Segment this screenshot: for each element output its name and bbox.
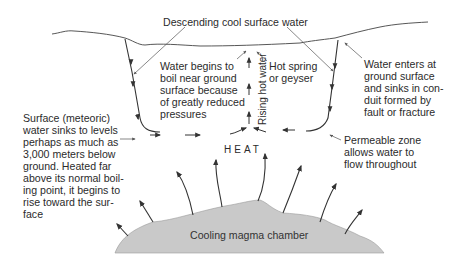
label-rising-hot-water: Rising hot water (257, 53, 268, 125)
label-water-begins-boil: Water begins to boil near ground surface… (160, 60, 245, 120)
right-conduit (306, 40, 338, 131)
left-conduit (125, 39, 160, 132)
label-hot-spring: Hot spring or geyser (269, 60, 317, 84)
magma-chamber (115, 200, 384, 253)
label-water-enters: Water enters at ground surface and sinks… (364, 58, 444, 118)
label-descending-water: Descending cool surface water (163, 16, 308, 28)
label-magma-chamber: Cooling magma chamber (190, 229, 308, 241)
label-heat: HEAT (224, 144, 262, 155)
label-surface-meteoric: Surface (meteoric) water sinks to levels… (23, 112, 124, 220)
label-permeable-zone: Permeable zone allows water to flow thro… (344, 134, 421, 170)
